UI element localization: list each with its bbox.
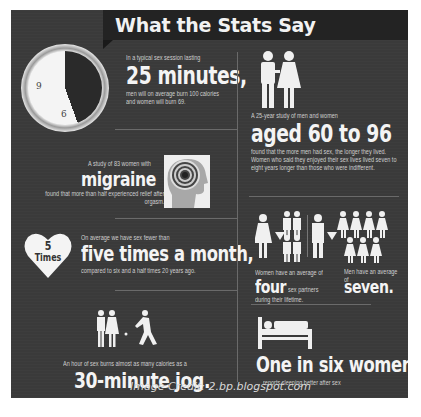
divider	[115, 290, 237, 291]
men-partners-headline: seven.	[344, 276, 394, 297]
head-target-icon	[164, 155, 210, 208]
bed-icon	[258, 317, 312, 349]
sleep-headline: One in six women	[256, 353, 408, 377]
couple-jogger-icon	[95, 310, 165, 350]
infographic-title: What the Stats Say	[115, 14, 316, 36]
heart-number: 5	[28, 241, 68, 252]
divider	[115, 218, 237, 219]
women-partners-detail: during their lifetime.	[255, 296, 315, 304]
clock-detail: men will on average burn 100 calories an…	[126, 90, 228, 106]
column-divider	[237, 52, 238, 382]
clock-number-6: 6	[61, 109, 67, 119]
frequency-headline: five times a month,	[81, 242, 253, 266]
partners-icon	[255, 210, 405, 265]
frequency-intro: On average we have sex fewer than	[81, 234, 209, 242]
women-partners-headline: four	[255, 276, 286, 297]
migraine-headline: migraine	[81, 167, 156, 191]
banner-fold	[103, 40, 113, 49]
clock-headline: 25 minutes,	[126, 62, 247, 90]
women-partners-suffix: sex partners	[288, 286, 331, 294]
clock-number-9: 9	[36, 81, 42, 91]
migraine-detail: found that more than half experienced re…	[37, 190, 165, 206]
infographic: What the Stats Say 9 6 In a typical sex …	[11, 10, 408, 398]
frequency-detail: compared to six and a half times 20 year…	[81, 267, 217, 275]
divider	[249, 196, 399, 197]
jog-intro: An hour of sex burns almost as many calo…	[63, 360, 191, 368]
image-credit: Image Credit: 2.bp.blogspot.com	[130, 380, 311, 393]
divider	[115, 129, 237, 130]
aged-headline: aged 60 to 96	[251, 120, 392, 148]
clock-icon: 9 6	[21, 44, 109, 132]
heart-label: 5 Times	[28, 241, 68, 263]
clock-face: 9 6	[28, 51, 102, 125]
clock-intro: In a typical sex session lasting	[126, 54, 228, 62]
aged-intro: A 25-year study of men and women	[251, 112, 379, 120]
aged-detail: found that the more men had sex, the lon…	[251, 148, 400, 172]
heart-times: Times	[28, 252, 68, 263]
couple-icon	[257, 50, 303, 110]
divider	[251, 304, 371, 305]
